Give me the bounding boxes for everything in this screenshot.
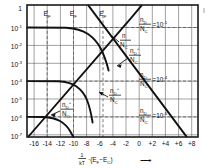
y-tick-5: 10-5 xyxy=(11,96,23,104)
y-tick-7: 10-7 xyxy=(11,132,23,140)
x-axis-frac-denominator: kT xyxy=(79,160,85,166)
x-tick-0: -16 xyxy=(29,140,39,147)
figure-container: 1 10-1 10-2 10-3 10-4 10-5 10-6 10-7 xyxy=(0,0,211,168)
y-tick-6: 10-6 xyxy=(11,114,23,122)
annotation-nd-1e-6-numerator: nD xyxy=(140,107,147,116)
curve-ndplus-1e-1 xyxy=(27,28,108,71)
annotation-nd-1e-1: nD NC =10-1 xyxy=(139,16,168,34)
x-axis-frac-numerator: 1 xyxy=(81,152,84,158)
annotation-ndplus-left-denominator: NC xyxy=(62,110,70,119)
annotation-ndplus-mid-denominator: NC xyxy=(110,96,118,105)
fermi-label-1: EF xyxy=(44,10,51,19)
annotation-nd-1e-4: nD NC =10-4 xyxy=(139,71,168,89)
y-tick-1: 10-1 xyxy=(11,24,23,32)
y-tick-4: 10-4 xyxy=(11,78,23,86)
x-axis-tick-labels: -16 -14 -12 -10 -8 -6 -4 -2 0 +2 +4 +6 +… xyxy=(29,140,195,147)
annotation-nd-1e-4-numerator: nD xyxy=(140,71,147,80)
x-tick-11: +6 xyxy=(175,140,183,147)
y-tick-3: 10-3 xyxy=(11,60,23,68)
annotation-ndplus-right-numerator: nD+ xyxy=(130,46,140,56)
annotation-nd-1e-6: nD NC =10-6 xyxy=(139,107,168,125)
x-tick-7: -2 xyxy=(123,140,129,147)
annotation-ndplus-left-leader xyxy=(51,111,60,115)
x-tick-6: -4 xyxy=(110,140,116,147)
annotation-nd-1e-1-denominator: NC xyxy=(140,25,148,34)
x-tick-5: -6 xyxy=(97,140,103,147)
x-tick-1: -14 xyxy=(42,140,52,147)
fermi-label-3: EF xyxy=(99,10,106,19)
annotation-ndplus-mid: nD+ NC xyxy=(99,86,121,105)
annotation-ndplus-left: nD+ NC xyxy=(51,100,73,119)
x-tick-3: -10 xyxy=(69,140,79,147)
chart-svg: 1 10-1 10-2 10-3 10-4 10-5 10-6 10-7 xyxy=(0,0,211,168)
annotation-ndplus-right-leader xyxy=(117,58,128,66)
y-axis-tick-labels: 1 10-1 10-2 10-3 10-4 10-5 10-6 10-7 xyxy=(11,5,23,140)
y-tick-0: 1 xyxy=(18,5,22,12)
x-axis-title: 1 kT ·(EF−EC) ⟶ xyxy=(79,152,153,166)
x-axis-expression: ·(EF−EC) xyxy=(88,156,113,165)
x-tick-9: +2 xyxy=(149,140,157,147)
annotation-n-over-nc-numerator: n xyxy=(122,32,126,39)
x-tick-10: +4 xyxy=(162,140,170,147)
annotation-ndplus-left-numerator: nD+ xyxy=(62,100,72,110)
y-tick-2: 10-2 xyxy=(11,42,23,50)
plot-area xyxy=(27,5,204,137)
annotation-nd-1e-1-numerator: nD xyxy=(140,16,147,25)
x-axis-arrow-icon: ⟶ xyxy=(140,156,152,165)
x-tick-4: -8 xyxy=(84,140,90,147)
annotation-ndplus-mid-numerator: nD+ xyxy=(110,86,120,96)
fermi-label-2: EF xyxy=(70,10,77,19)
annotation-nd-1e-6-denominator: NC xyxy=(140,116,148,125)
x-tick-8: 0 xyxy=(137,140,141,147)
x-tick-2: -12 xyxy=(56,140,66,147)
x-tick-12: +8 xyxy=(188,140,196,147)
